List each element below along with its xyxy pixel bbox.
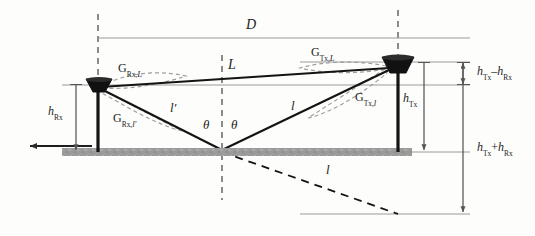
label-distance-D: D <box>246 18 256 32</box>
height-diff-sub2: Rx <box>503 73 512 82</box>
receiver-horn-aperture <box>86 77 112 82</box>
label-height-tx: hTx <box>403 92 417 104</box>
height-sum-sub1: Tx <box>483 149 491 158</box>
transmitter-horn-aperture <box>382 55 414 61</box>
gain-rx-L-base: G <box>118 61 127 75</box>
gain-rx-lp-var: l′ <box>132 119 136 129</box>
gain-rx-L-sub: Rx, <box>127 70 138 79</box>
label-height-rx: hRx <box>48 105 63 117</box>
height-rx-sub: Rx <box>54 113 63 122</box>
label-theta-right: θ <box>231 118 237 131</box>
label-image-path-l: l <box>326 163 330 176</box>
gain-rx-lp-base: G <box>113 111 122 125</box>
label-gain-rx-L: GRx,L <box>118 62 142 74</box>
propagation-geometry-svg <box>0 0 535 236</box>
gain-tx-l-sub: Tx, <box>364 99 374 108</box>
gain-tx-l-base: G <box>355 90 364 104</box>
height-sum-sub2: Rx <box>504 149 513 158</box>
height-tx-sub: Tx <box>409 100 417 109</box>
label-height-sum: hTx+hRx <box>477 141 513 153</box>
gain-tx-L-base: G <box>311 45 320 59</box>
label-path-L: L <box>228 58 236 72</box>
label-path-l-prime: l′ <box>170 101 176 114</box>
los-ray-L <box>101 68 389 87</box>
label-theta-left: θ <box>203 118 209 131</box>
label-path-l: l <box>291 99 295 112</box>
height-diff-sub1: Tx <box>483 73 491 82</box>
receiver-assembly <box>86 77 112 152</box>
label-gain-tx-l: GTx,l <box>355 91 376 103</box>
gain-tx-L-sub: Tx, <box>320 54 330 63</box>
label-height-difference: hTx–hRx <box>477 65 512 77</box>
diagram-canvas: D L l′ l l θ θ GRx,L GRx,l′ GTx,L GTx,l … <box>0 0 535 236</box>
gain-rx-lp-sub: Rx, <box>122 120 133 129</box>
reflected-ray-l <box>222 70 389 150</box>
image-ray-l-dashed <box>222 152 398 214</box>
gain-tx-L-var: L <box>330 53 335 63</box>
gain-tx-l-var: l <box>374 98 376 108</box>
ray-paths <box>101 68 398 214</box>
ground-plane <box>62 148 412 156</box>
antenna-gain-lobes <box>100 62 387 131</box>
gain-rx-L-var: L <box>137 69 142 79</box>
label-gain-rx-l-prime: GRx,l′ <box>113 112 137 124</box>
label-gain-tx-L: GTx,L <box>311 46 335 58</box>
